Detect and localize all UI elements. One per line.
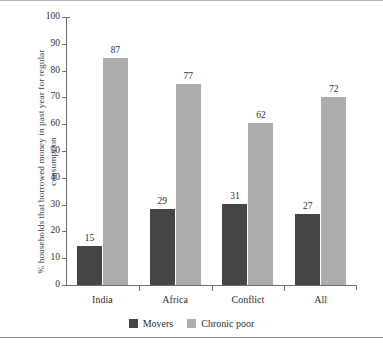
bar-value-label: 29 bbox=[147, 196, 177, 206]
y-axis-tick bbox=[62, 258, 67, 259]
x-axis-tick bbox=[212, 286, 213, 291]
legend-entry-chronic-poor: Chronic poor bbox=[187, 318, 254, 329]
category-label-all: All bbox=[284, 294, 357, 306]
y-axis-tick-label: 50 bbox=[20, 146, 60, 156]
bar-movers-all bbox=[295, 214, 320, 285]
legend-swatch-icon bbox=[129, 319, 138, 328]
y-axis-tick-label: 60 bbox=[20, 119, 60, 129]
bar-chronic-poor-india bbox=[103, 58, 128, 285]
bar-movers-conflict bbox=[222, 204, 247, 285]
y-axis-tick-label: 70 bbox=[20, 92, 60, 102]
y-axis-tick bbox=[62, 285, 67, 286]
y-axis-tick-label: 90 bbox=[20, 39, 60, 49]
bar-value-label: 31 bbox=[220, 191, 250, 201]
y-axis-tick bbox=[62, 124, 67, 125]
legend-entry-movers: Movers bbox=[129, 318, 174, 329]
chart-legend: MoversChronic poor bbox=[0, 318, 383, 329]
x-axis-tick bbox=[139, 286, 140, 291]
bar-chronic-poor-conflict bbox=[248, 123, 273, 285]
y-axis-tick bbox=[62, 97, 67, 98]
y-axis-tick-label: 80 bbox=[20, 66, 60, 76]
y-axis-tick bbox=[62, 205, 67, 206]
bar-movers-india bbox=[77, 246, 102, 285]
bar-chronic-poor-africa bbox=[176, 84, 201, 285]
y-axis-tick-label: 40 bbox=[20, 173, 60, 183]
bar-value-label: 15 bbox=[74, 233, 104, 243]
y-axis-tick-label: 20 bbox=[20, 226, 60, 236]
bar-movers-africa bbox=[150, 209, 175, 285]
bar-chronic-poor-all bbox=[321, 97, 346, 285]
y-axis-tick bbox=[62, 151, 67, 152]
bar-value-label: 27 bbox=[293, 201, 323, 211]
y-axis-tick bbox=[62, 231, 67, 232]
y-axis-tick bbox=[62, 178, 67, 179]
bar-value-label: 87 bbox=[100, 45, 130, 55]
y-axis-tick-label: 100 bbox=[20, 12, 60, 22]
y-axis-tick bbox=[62, 44, 67, 45]
y-axis-tick-label: 0 bbox=[20, 280, 60, 290]
y-axis-tick-label: 10 bbox=[20, 253, 60, 263]
legend-label: Movers bbox=[143, 318, 174, 329]
bar-value-label: 72 bbox=[319, 84, 349, 94]
legend-swatch-icon bbox=[187, 319, 196, 328]
x-axis-tick bbox=[284, 286, 285, 291]
y-axis-tick bbox=[62, 71, 67, 72]
category-label-africa: Africa bbox=[139, 294, 212, 306]
page-bottom-rule bbox=[0, 337, 383, 338]
x-axis-right-end-tick bbox=[356, 285, 357, 290]
legend-label: Chronic poor bbox=[201, 318, 254, 329]
bar-chart-figure: % households that borrowed money in past… bbox=[0, 0, 383, 348]
bar-value-label: 62 bbox=[246, 110, 276, 120]
bar-value-label: 77 bbox=[173, 71, 203, 81]
y-axis-tick bbox=[62, 17, 67, 18]
category-label-conflict: Conflict bbox=[212, 294, 285, 306]
category-label-india: India bbox=[66, 294, 139, 306]
y-axis-tick-label: 30 bbox=[20, 200, 60, 210]
